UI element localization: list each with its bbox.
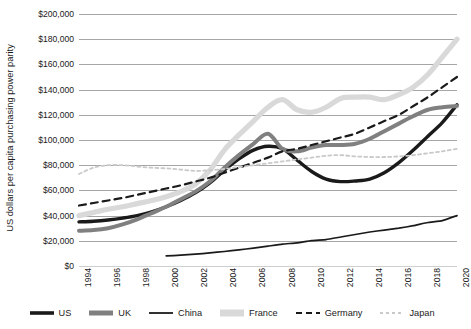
gridline [79, 266, 457, 267]
y-axis-tick-label: $200,000 [38, 9, 74, 19]
legend-item-japan[interactable]: Japan [379, 308, 434, 318]
y-axis-tick-label: $40,000 [43, 211, 74, 221]
legend-label: US [59, 308, 72, 318]
x-axis-tick-label: 2018 [432, 268, 442, 287]
legend-label: Germany [325, 308, 363, 318]
legend-swatch-germany [295, 308, 321, 318]
legend-swatch-uk [88, 308, 114, 318]
legend-label: France [249, 308, 278, 318]
series-line-uk [79, 106, 457, 231]
y-axis-tick-label: $160,000 [38, 59, 74, 69]
x-axis-tick-label: 2008 [287, 268, 297, 287]
x-axis-tick-label: 1994 [83, 268, 93, 287]
x-axis-tick-label: 1996 [112, 268, 122, 287]
plot-area [79, 14, 457, 266]
x-axis-tick-labels: 1994199619982000200220042006200820102012… [79, 268, 457, 302]
x-axis-tick-label: 2010 [316, 268, 326, 287]
legend-item-france[interactable]: France [219, 308, 278, 318]
x-axis-tick-label: 2004 [228, 268, 238, 287]
x-axis-tick-label: 2006 [257, 268, 267, 287]
x-axis-tick-label: 2002 [199, 268, 209, 287]
y-axis-tick-label: $120,000 [38, 110, 74, 120]
y-axis-tick-label: $0 [64, 261, 74, 271]
legend-label: UK [118, 308, 131, 318]
legend-item-us[interactable]: US [29, 308, 72, 318]
y-axis-title: US dollars per capita purchasing power p… [0, 0, 20, 275]
legend-swatch-japan [379, 308, 405, 318]
x-axis-tick-label: 2020 [461, 268, 471, 287]
legend-label: China [178, 308, 202, 318]
x-axis-tick-label: 2016 [403, 268, 413, 287]
legend-swatch-china [148, 308, 174, 318]
y-axis-tick-label: $80,000 [43, 160, 74, 170]
y-axis-tick-label: $100,000 [38, 135, 74, 145]
y-axis-title-text: US dollars per capita purchasing power p… [5, 44, 15, 232]
chart-legend: USUKChinaFranceGermanyJapan [0, 303, 463, 323]
y-axis-tick-label: $180,000 [38, 34, 74, 44]
x-axis-tick-label: 2012 [345, 268, 355, 287]
x-axis-tick-label: 1998 [141, 268, 151, 287]
x-axis-tick-label: 2000 [170, 268, 180, 287]
legend-label: Japan [409, 308, 434, 318]
y-axis-tick-label: $20,000 [43, 236, 74, 246]
series-lines [79, 14, 457, 266]
y-axis-tick-label: $140,000 [38, 85, 74, 95]
x-axis-tick-label: 2014 [374, 268, 384, 287]
y-axis-tick-labels: $0$20,000$40,000$60,000$80,000$100,000$1… [18, 8, 78, 270]
legend-item-china[interactable]: China [148, 308, 202, 318]
series-line-france [79, 39, 457, 215]
y-axis-tick-label: $60,000 [43, 185, 74, 195]
series-line-china [166, 216, 457, 256]
legend-swatch-us [29, 308, 55, 318]
legend-swatch-france [219, 308, 245, 318]
legend-item-germany[interactable]: Germany [295, 308, 363, 318]
legend-item-uk[interactable]: UK [88, 308, 131, 318]
